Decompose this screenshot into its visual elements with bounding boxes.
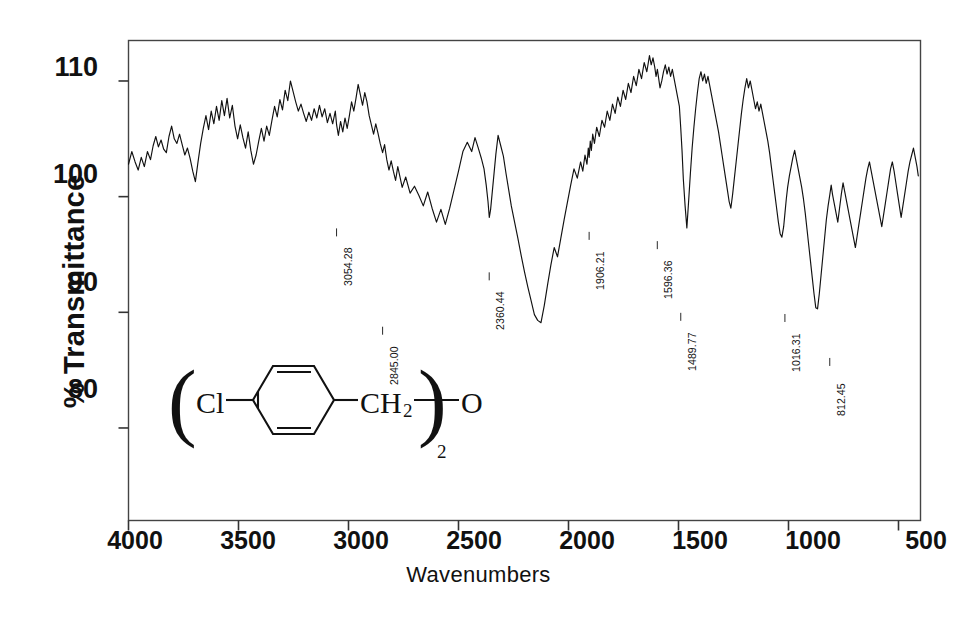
spectrum-plot [0, 0, 957, 626]
peak-label-2845-00: 2845.00 [388, 346, 400, 385]
peak-label-3054-28: 3054.28 [342, 248, 354, 287]
plot-frame [129, 41, 921, 521]
structure-label-ch2-subscript: 2 [403, 400, 413, 422]
peak-label-1596-36: 1596.36 [662, 260, 674, 299]
structure-label-cl: Cl [196, 386, 224, 420]
structure-repeat-subscript: 2 [437, 441, 447, 463]
ir-spectrum-figure: % Transmittance Wavenumbers 110 100 90 8… [0, 0, 957, 626]
structure-label-o: O [461, 386, 483, 420]
peak-label-812-45: 812.45 [835, 383, 847, 416]
peak-label-1906-21: 1906.21 [594, 251, 606, 290]
peak-label-2360-44: 2360.44 [494, 292, 506, 331]
y-axis-ticks [119, 81, 129, 428]
peak-label-1016-31: 1016.31 [790, 333, 802, 372]
structure-label-ch2: CH [360, 386, 402, 420]
peak-leader-lines [337, 228, 830, 366]
structure-open-paren: ( [168, 358, 197, 444]
structure-close-paren: ) [418, 358, 447, 444]
peak-label-1489-77: 1489.77 [686, 332, 698, 371]
x-axis-ticks [129, 521, 899, 531]
transmittance-trace [129, 56, 919, 323]
